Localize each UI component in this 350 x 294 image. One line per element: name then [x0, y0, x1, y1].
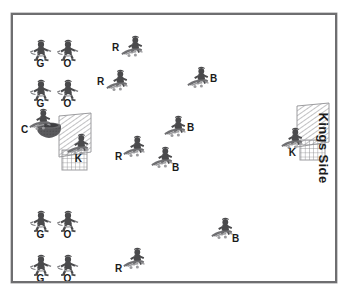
unit-token-b[interactable]: B — [163, 114, 189, 140]
unit-label: G — [36, 274, 44, 281]
diagram-frame: GOGOCKRRBBRBKGOGORB Kings Side — [11, 13, 337, 283]
rider-figure-icon — [163, 114, 189, 140]
unit-label: K — [75, 154, 82, 164]
kings-side-label: Kings Side — [316, 112, 331, 183]
rider-figure-icon — [122, 134, 148, 160]
rider-figure-icon — [120, 34, 146, 60]
unit-token-r[interactable]: R — [122, 134, 148, 160]
unit-label: R — [97, 77, 104, 87]
unit-label: O — [63, 274, 71, 281]
unit-token-g[interactable]: G — [28, 208, 54, 234]
unit-label: C — [21, 125, 28, 135]
unit-token-g[interactable]: G — [28, 37, 54, 63]
unit-token-b[interactable]: B — [186, 65, 212, 91]
unit-label: K — [289, 148, 296, 158]
unit-token-o[interactable]: O — [55, 37, 81, 63]
unit-label: O — [63, 99, 71, 109]
unit-token-k[interactable]: K — [280, 126, 306, 152]
unit-token-o[interactable]: O — [55, 252, 81, 278]
unit-token-o[interactable]: O — [55, 208, 81, 234]
unit-token-b[interactable]: B — [210, 216, 236, 242]
unit-token-r[interactable]: R — [120, 34, 146, 60]
unit-token-r[interactable]: R — [105, 68, 131, 94]
field-canvas[interactable]: GOGOCKRRBBRBKGOGORB Kings Side — [13, 15, 335, 281]
unit-token-c[interactable]: C — [28, 107, 54, 133]
unit-token-o[interactable]: O — [55, 77, 81, 103]
unit-label: R — [112, 43, 119, 53]
unit-token-g[interactable]: G — [28, 77, 54, 103]
unit-label: R — [115, 264, 122, 274]
rider-figure-icon — [28, 107, 54, 133]
unit-token-r[interactable]: R — [122, 246, 148, 272]
unit-label: B — [187, 123, 194, 133]
unit-label: O — [63, 59, 71, 69]
unit-token-b[interactable]: B — [150, 145, 176, 171]
unit-label: R — [115, 152, 122, 162]
unit-label: B — [172, 163, 179, 173]
rider-figure-icon — [122, 246, 148, 272]
unit-token-k[interactable]: K — [66, 132, 92, 158]
unit-label: G — [36, 59, 44, 69]
rider-figure-icon — [105, 68, 131, 94]
unit-label: B — [232, 234, 239, 244]
unit-label: B — [210, 74, 217, 84]
unit-label: G — [36, 230, 44, 240]
unit-label: O — [63, 230, 71, 240]
rider-figure-icon — [186, 65, 212, 91]
unit-token-g[interactable]: G — [28, 252, 54, 278]
